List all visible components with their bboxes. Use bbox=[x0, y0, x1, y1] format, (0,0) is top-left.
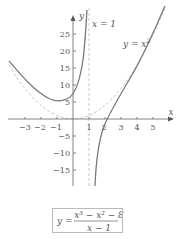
y-tick-label: 15 bbox=[60, 64, 70, 73]
y-axis-label: y bbox=[78, 11, 85, 21]
x-tick-label: 5 bbox=[150, 123, 155, 132]
x-tick-label: −2 bbox=[34, 123, 46, 132]
x-tick-label: −3 bbox=[19, 123, 31, 132]
parabola-curve bbox=[9, 6, 166, 119]
x-tick-label: 4 bbox=[134, 123, 139, 132]
y-axis-arrow-icon bbox=[71, 15, 76, 21]
y-tick-label: 5 bbox=[65, 98, 70, 107]
y-ticks bbox=[73, 34, 76, 170]
y-tick-label: −10 bbox=[53, 149, 70, 158]
x-tick-label: 1 bbox=[86, 123, 91, 132]
parabola-label: y = x2 bbox=[122, 37, 150, 49]
y-tick-label: 10 bbox=[60, 81, 70, 90]
y-tick-label: −15 bbox=[53, 166, 70, 175]
x-tick-label: 2 bbox=[101, 123, 106, 132]
function-curve-right bbox=[95, 6, 165, 186]
x-tick-label: −1 bbox=[50, 123, 62, 132]
function-curve-left bbox=[9, 10, 87, 101]
y-tick-label: 20 bbox=[60, 47, 70, 56]
chart-canvas: −3 −2 −1 1 2 3 4 5 25 20 15 10 5 −5 −10 … bbox=[0, 0, 180, 239]
x-tick-label: 3 bbox=[118, 123, 123, 132]
x-axis-arrow-icon bbox=[168, 117, 174, 122]
y-tick-label: 25 bbox=[60, 30, 70, 39]
formula-box bbox=[52, 208, 123, 233]
x-axis-label: x bbox=[168, 107, 173, 117]
asymptote-label: x = 1 bbox=[92, 19, 116, 29]
y-tick-label: −5 bbox=[58, 132, 70, 141]
